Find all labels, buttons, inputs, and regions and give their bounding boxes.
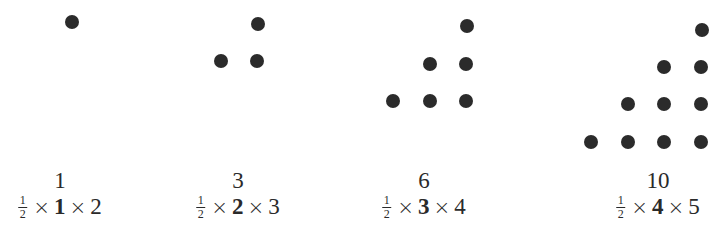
formula-n: 3 — [418, 194, 430, 220]
dot — [584, 135, 598, 149]
formula-n-plus-1: 5 — [688, 194, 700, 220]
times-sign: × — [631, 195, 648, 219]
times-sign: × — [211, 195, 228, 219]
dot — [423, 57, 437, 71]
formula-n: 1 — [54, 194, 66, 220]
dot — [621, 97, 635, 111]
dot — [694, 97, 708, 111]
dot — [459, 94, 473, 108]
fraction-half: 12 — [18, 195, 27, 220]
dot — [250, 54, 264, 68]
times-sign: × — [397, 195, 414, 219]
dot — [694, 135, 708, 149]
fraction-half: 12 — [382, 195, 391, 220]
formula-n: 2 — [232, 194, 244, 220]
dot — [459, 57, 473, 71]
dot — [423, 94, 437, 108]
formula-n-plus-1: 4 — [454, 194, 466, 220]
dot — [386, 94, 400, 108]
dot — [214, 54, 228, 68]
times-sign: × — [33, 195, 50, 219]
formula-3: 12 × 3 × 4 — [382, 194, 466, 220]
formula-n: 4 — [652, 194, 664, 220]
times-sign: × — [248, 195, 265, 219]
triangular-number-4: 10 — [647, 168, 670, 194]
triangular-number-1: 1 — [54, 168, 66, 194]
dot — [657, 135, 671, 149]
times-sign: × — [668, 195, 685, 219]
triangular-number-3: 6 — [418, 168, 430, 194]
times-sign: × — [70, 195, 87, 219]
dot — [621, 135, 635, 149]
formula-n-plus-1: 3 — [268, 194, 280, 220]
dot — [657, 60, 671, 74]
fraction-half: 12 — [616, 195, 625, 220]
formula-2: 12 × 2 × 3 — [196, 194, 280, 220]
dot — [251, 17, 265, 31]
dot — [657, 97, 671, 111]
dot — [460, 19, 474, 33]
dot — [65, 15, 79, 29]
fraction-half: 12 — [196, 195, 205, 220]
times-sign: × — [434, 195, 451, 219]
dot — [695, 23, 709, 37]
formula-n-plus-1: 2 — [90, 194, 102, 220]
triangular-number-2: 3 — [232, 168, 244, 194]
formula-4: 12 × 4 × 5 — [616, 194, 700, 220]
formula-1: 12 × 1 × 2 — [18, 194, 102, 220]
dot — [694, 60, 708, 74]
